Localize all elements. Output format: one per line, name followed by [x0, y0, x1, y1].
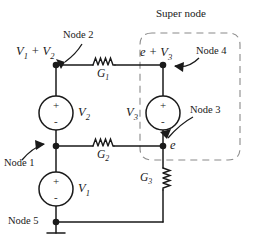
node2-expr-sub2: 2	[50, 51, 54, 61]
node4-annotation-label: Node 4	[196, 46, 227, 57]
v2-label-sub: 2	[86, 112, 90, 122]
arrowhead-node4	[174, 62, 184, 72]
arrowhead-node1	[35, 140, 45, 150]
node4-expr-e-plus-v: e + V	[140, 45, 168, 59]
g1-label: G1	[97, 68, 109, 82]
node3-voltage-label: e	[170, 139, 176, 152]
v2-plus-sign: +	[53, 100, 59, 111]
circuit-schematic-svg	[0, 0, 257, 246]
g1-label-sub: 1	[105, 73, 109, 82]
node-dot-node4	[160, 62, 167, 69]
v3-label-sub: 3	[134, 112, 138, 122]
node2-expr-v: V	[16, 44, 24, 58]
node1-annotation-label: Node 1	[4, 158, 35, 169]
conductance-g3-symbol	[163, 168, 170, 190]
node2-expr-mid: + V	[28, 44, 50, 58]
g2-label: G2	[97, 149, 109, 163]
v1-label: V1	[78, 182, 90, 197]
node4-voltage-expression: e + V3	[140, 46, 172, 61]
node-dot-node1	[53, 143, 60, 150]
node-dot-node3	[160, 143, 167, 150]
v2-label: V2	[78, 106, 90, 121]
v1-plus-sign: +	[53, 176, 59, 187]
v1-label-sub: 1	[86, 188, 90, 198]
v1-label-letter: V	[78, 181, 86, 195]
conductance-g2-symbol	[93, 139, 114, 146]
super-node-title: Super node	[156, 8, 206, 19]
node3-annotation-label: Node 3	[190, 105, 221, 116]
v3-plus-sign: +	[160, 100, 166, 111]
g2-label-sub: 2	[105, 154, 109, 163]
v3-minus-sign: -	[161, 116, 165, 127]
v3-label: V3	[126, 106, 138, 121]
node-dot-node5	[53, 219, 60, 226]
v1-minus-sign: -	[54, 192, 58, 203]
v2-minus-sign: -	[54, 116, 58, 127]
node5-annotation-label: Node 5	[8, 216, 39, 227]
node2-annotation-label: Node 2	[63, 30, 94, 41]
circuit-diagram: Super node Node 2 Node 4 Node 3 Node 1 N…	[0, 0, 257, 246]
conductance-g1-symbol	[93, 58, 115, 65]
node2-voltage-expression: V1 + V2	[16, 45, 54, 60]
v3-label-letter: V	[126, 105, 134, 119]
g3-label-sub: 3	[148, 177, 152, 186]
v2-label-letter: V	[78, 105, 86, 119]
arrow-node2-leader	[65, 44, 82, 62]
node4-expr-sub: 3	[168, 52, 172, 62]
g3-label: G3	[140, 172, 152, 186]
